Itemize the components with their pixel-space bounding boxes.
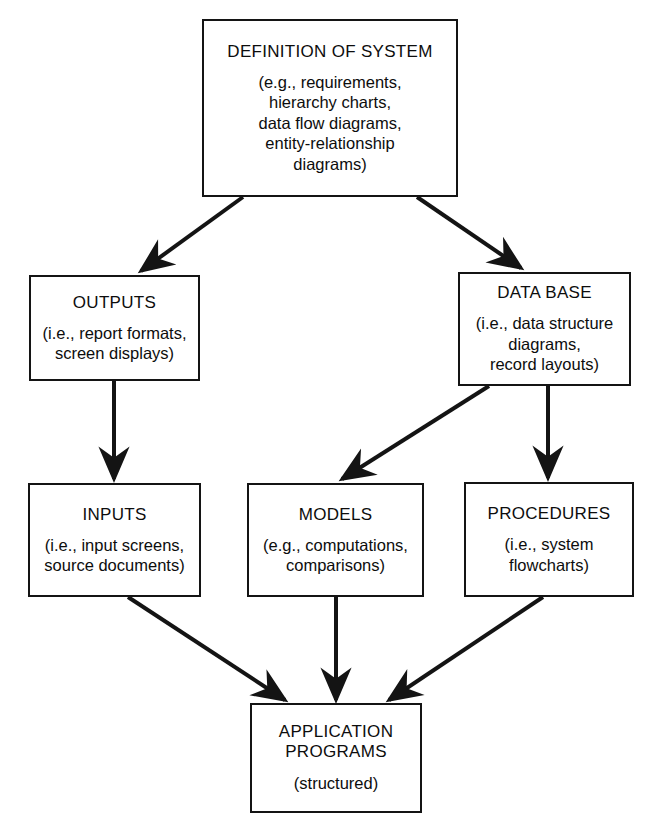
node-data-base[interactable]: DATA BASE (i.e., data structure diagrams… bbox=[458, 272, 631, 386]
node-models-subtitle: (e.g., computations, comparisons) bbox=[263, 535, 408, 576]
node-models-title: MODELS bbox=[299, 505, 373, 525]
node-application-programs-subtitle: (structured) bbox=[294, 773, 378, 793]
edge-definition-to-data-base bbox=[417, 197, 521, 268]
node-inputs[interactable]: INPUTS (i.e., input screens, source docu… bbox=[28, 483, 201, 597]
node-procedures-subtitle: (i.e., system flowcharts) bbox=[505, 534, 594, 575]
edge-definition-to-outputs bbox=[141, 197, 243, 271]
node-procedures-title: PROCEDURES bbox=[488, 504, 611, 524]
node-application-programs-title: APPLICATION PROGRAMS bbox=[279, 722, 393, 762]
node-definition-of-system-title: DEFINITION OF SYSTEM bbox=[227, 42, 432, 62]
node-outputs[interactable]: OUTPUTS (i.e., report formats, screen di… bbox=[29, 275, 200, 381]
node-outputs-title: OUTPUTS bbox=[73, 293, 156, 313]
node-models[interactable]: MODELS (e.g., computations, comparisons) bbox=[247, 483, 424, 597]
edge-procedures-to-application-programs bbox=[389, 597, 543, 700]
node-procedures[interactable]: PROCEDURES (i.e., system flowcharts) bbox=[464, 482, 634, 597]
node-definition-of-system-subtitle: (e.g., requirements, hierarchy charts, d… bbox=[258, 72, 401, 174]
node-data-base-subtitle: (i.e., data structure diagrams, record l… bbox=[476, 313, 614, 374]
edge-inputs-to-application-programs bbox=[128, 597, 285, 700]
node-outputs-subtitle: (i.e., report formats, screen displays) bbox=[43, 323, 187, 364]
node-application-programs[interactable]: APPLICATION PROGRAMS (structured) bbox=[250, 703, 422, 813]
edge-data-base-to-models bbox=[342, 386, 489, 479]
node-inputs-title: INPUTS bbox=[82, 505, 146, 525]
node-inputs-subtitle: (i.e., input screens, source documents) bbox=[44, 535, 184, 576]
node-definition-of-system[interactable]: DEFINITION OF SYSTEM (e.g., requirements… bbox=[202, 19, 458, 197]
flowchart-diagram: DEFINITION OF SYSTEM (e.g., requirements… bbox=[0, 0, 663, 839]
node-data-base-title: DATA BASE bbox=[497, 283, 592, 303]
